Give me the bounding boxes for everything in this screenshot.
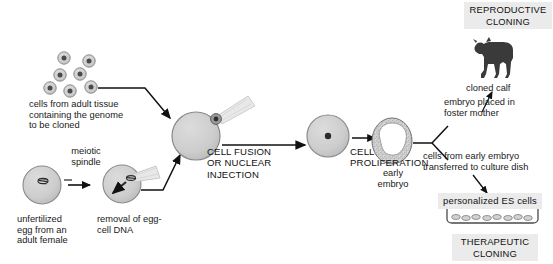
diagram-canvas <box>0 0 553 264</box>
label-unfertilized-egg: unfertilized egg from an adult female <box>17 214 68 246</box>
label-cell-proliferation-step: CELL PROLIFERATION <box>350 146 429 169</box>
es-cell-colony <box>452 215 532 221</box>
cloning-diagram: cells from adult tissue containing the g… <box>0 0 553 264</box>
label-removal-egg-dna: removal of egg- cell DNA <box>97 214 162 235</box>
adult-cell <box>74 68 86 80</box>
culture-dish-icon <box>447 207 538 223</box>
adult-cell <box>44 82 56 94</box>
meiotic-spindle-icon <box>38 178 48 184</box>
label-adult-tissue-cells: cells from adult tissue containing the g… <box>29 99 123 131</box>
adult-cell <box>64 85 76 97</box>
label-personalized-es-cells: personalized ES cells <box>438 193 542 209</box>
adult-cell <box>83 55 95 67</box>
adult-tissue-cell-cluster <box>44 52 97 97</box>
label-therapeutic-cloning: THERAPEUTIC CLONING <box>452 234 538 261</box>
label-early-embryo: early embryo <box>368 168 418 189</box>
reconstructed-zygote-cell <box>307 115 349 157</box>
adult-cell <box>85 81 97 93</box>
injection-pipette-icon <box>211 96 255 124</box>
egg-dna-removal <box>103 165 160 203</box>
label-embryo-foster-mother: embryo placed in foster mother <box>444 97 515 118</box>
label-cloned-calf: cloned calf <box>466 83 510 94</box>
unfertilized-egg-cell <box>23 166 61 204</box>
label-meiotic-spindle: meiotic spindle <box>57 146 115 167</box>
adult-cell <box>58 52 70 64</box>
arrow-to-culture-dish <box>473 175 487 193</box>
label-reproductive-cloning: REPRODUCTIVE CLONING <box>464 2 552 29</box>
label-cell-fusion-step: CELL FUSION OR NUCLEAR INJECTION <box>207 146 271 180</box>
adult-cell <box>54 69 66 81</box>
cloned-calf-icon <box>473 37 513 78</box>
label-cells-transferred: cells from early embryo transferred to c… <box>423 151 528 172</box>
